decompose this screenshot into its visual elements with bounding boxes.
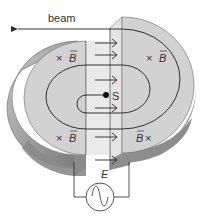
into-page-cross: × — [146, 52, 152, 64]
into-page-cross: × — [56, 52, 62, 64]
bfield-symbol: B — [159, 52, 166, 64]
right-dee — [110, 17, 196, 170]
particle-source-dot — [103, 92, 109, 98]
source-label: S — [112, 90, 119, 102]
cyclotron-diagram: S beam × B × B × B B × E — [0, 0, 204, 223]
beam-label: beam — [48, 12, 76, 24]
efield-arrow — [95, 156, 117, 164]
accelerating-gap — [86, 41, 110, 155]
bfield-symbol: B — [136, 132, 143, 144]
bfield-symbol: B — [69, 52, 76, 64]
bfield-symbol: B — [69, 132, 76, 144]
efield-label: E — [101, 168, 109, 180]
into-page-cross: × — [56, 132, 62, 144]
into-page-cross: × — [145, 132, 151, 144]
